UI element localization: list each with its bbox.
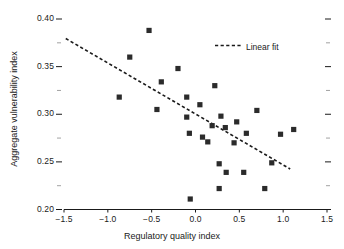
data-point [234,119,239,124]
x-tick-label-3: 0.0 [176,214,216,224]
data-point [224,170,229,175]
y-tick-label-1: 0.25 [16,156,54,166]
data-point [197,102,202,107]
y-tick-label-0: 0.20 [16,204,54,214]
y-tick-label-2: 0.30 [16,108,54,118]
scatter-chart-figure: Linear fit Regulatory quality index Aggr… [0,0,344,249]
data-point [244,131,249,136]
data-point [262,186,267,191]
y-axis-ticks-right [325,19,331,210]
x-tick-label-2: −0.5 [132,214,172,224]
data-point [241,170,246,175]
data-point-group [117,28,297,202]
data-point [200,135,205,140]
y-axis-ticks [56,19,62,210]
data-point [231,140,236,145]
data-point [188,196,193,201]
data-point [184,95,189,100]
data-point [223,125,228,130]
data-point [291,127,296,132]
data-point [146,28,151,33]
data-point [217,161,222,166]
data-point [269,160,274,165]
data-point [210,123,215,128]
y-tick-label-3: 0.35 [16,61,54,71]
legend-label: Linear fit [246,42,279,52]
data-point [217,186,222,191]
data-point [117,95,122,100]
x-tick-label-6: 1.5 [307,214,344,224]
data-point [175,66,180,71]
data-point [159,79,164,84]
data-point [218,114,223,119]
data-point [254,108,259,113]
data-point [278,132,283,137]
x-tick-label-1: −1.0 [88,214,128,224]
data-point [212,83,217,88]
y-tick-label-4: 0.40 [16,13,54,23]
data-point [187,131,192,136]
x-tick-label-4: 0.5 [219,214,259,224]
x-tick-label-0: −1.5 [44,214,84,224]
x-tick-label-5: 1.0 [263,214,303,224]
data-point [127,55,132,60]
data-point [154,107,159,112]
linear-fit-line [66,39,290,169]
x-axis-title: Regulatory quality index [0,231,344,241]
data-point [184,115,189,120]
data-point [205,139,210,144]
